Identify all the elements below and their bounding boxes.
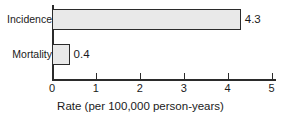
- x-axis-title: Rate (per 100,000 person-years): [0, 99, 281, 113]
- x-axis-tick: [228, 73, 229, 80]
- x-axis-tick-label: 5: [268, 82, 274, 95]
- x-axis-tick: [52, 73, 53, 80]
- x-axis-tick-label: 0: [49, 82, 55, 95]
- bar: [52, 44, 70, 65]
- bar-chart: 012345 4.30.4 IncidenceMortality Rate (p…: [0, 0, 281, 120]
- x-axis-tick-label: 4: [225, 82, 231, 95]
- x-axis-tick: [96, 73, 97, 80]
- x-axis-tick-label: 1: [93, 82, 99, 95]
- category-label: Incidence: [7, 13, 52, 26]
- bar-value-label: 0.4: [74, 48, 90, 61]
- x-axis-tick-label: 2: [137, 82, 143, 95]
- bar-value-label: 4.3: [245, 13, 261, 26]
- x-axis-line: [52, 79, 276, 81]
- category-label: Mortality: [12, 48, 52, 61]
- x-axis-tick-label: 3: [181, 82, 187, 95]
- x-axis-tick: [140, 73, 141, 80]
- x-axis-tick: [184, 73, 185, 80]
- bar: [52, 9, 241, 30]
- x-axis-tick: [272, 73, 273, 80]
